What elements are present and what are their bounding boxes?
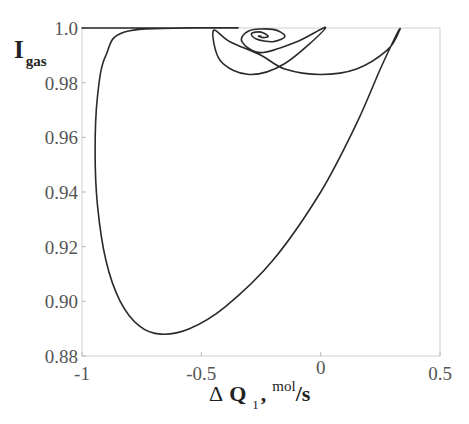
y-tick-label: 0.90 — [45, 291, 78, 312]
x-axis-title-sub: 1 — [252, 397, 259, 412]
x-axis-title-comma: , — [261, 381, 267, 406]
x-axis-title-unit: /s — [295, 381, 311, 406]
x-axis-title-main: Q — [229, 381, 246, 406]
x-tick-label: 0.5 — [428, 363, 452, 384]
y-axis-title: Igas — [14, 36, 47, 69]
x-axis: -1-0.500.5 — [74, 352, 452, 384]
y-tick-label: 0.96 — [45, 127, 78, 148]
y-tick-label: 0.94 — [45, 182, 79, 203]
plot-area — [82, 28, 440, 356]
y-tick-label: 0.88 — [45, 346, 78, 367]
y-axis: 0.880.900.920.940.960.981.0 — [45, 18, 86, 367]
x-axis-title-delta: Δ — [209, 381, 223, 406]
phase-plot: 0.880.900.920.940.960.981.0 -1-0.500.5 I… — [0, 0, 469, 424]
y-tick-label: 1.0 — [54, 18, 78, 39]
y-tick-label: 0.98 — [45, 73, 78, 94]
x-tick-label: -1 — [74, 363, 90, 384]
trajectory-line — [82, 27, 400, 334]
y-tick-label: 0.92 — [45, 237, 78, 258]
x-axis-title-unit-sup: mol — [272, 378, 295, 394]
x-axis-title: ΔQ1,mol/s — [209, 378, 311, 412]
y-axis-title-main: I — [14, 36, 24, 63]
y-axis-title-sub: gas — [26, 53, 47, 69]
x-tick-label: 0 — [316, 357, 326, 378]
